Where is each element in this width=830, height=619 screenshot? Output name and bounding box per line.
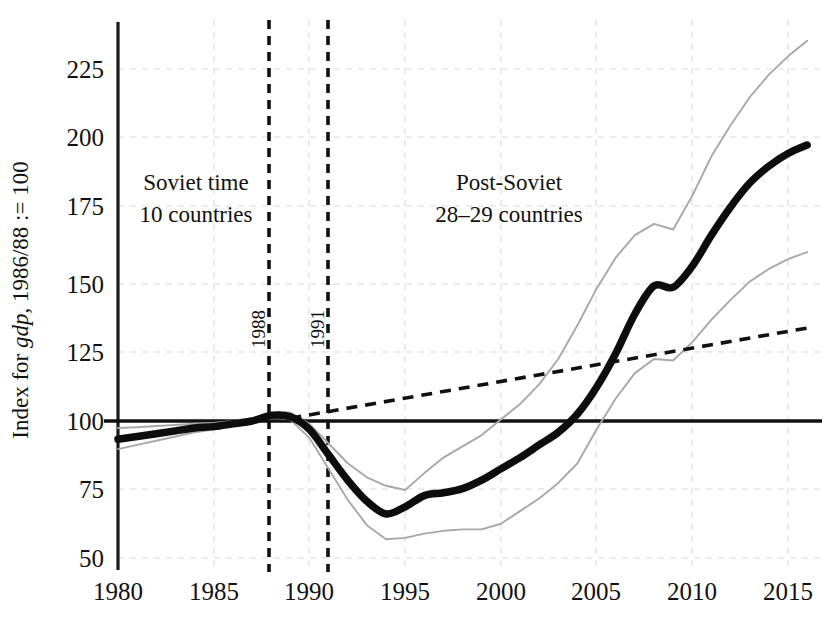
x-tick-1980: 1980 — [93, 578, 143, 605]
y-tick-200: 200 — [67, 124, 105, 151]
annotation-soviet-time-line1: Soviet time — [143, 170, 248, 195]
event-label-1988: 1988 — [248, 310, 269, 348]
x-tick-1990: 1990 — [284, 578, 334, 605]
event-label-1991: 1991 — [307, 310, 328, 348]
y-axis-title-post: , 1986/88 := 100 — [8, 161, 33, 313]
annotation-soviet-time: Soviet time 10 countries — [139, 170, 252, 227]
chart-canvas: 225 200 175 150 125 100 75 50 1980 1985 … — [0, 0, 830, 619]
y-tick-225: 225 — [67, 56, 105, 83]
y-axis-title: Index for gdp, 1986/88 := 100 — [8, 161, 33, 438]
x-tick-2000: 2000 — [476, 578, 526, 605]
x-tick-2015: 2015 — [763, 578, 813, 605]
x-tick-labels: 1980 1985 1990 1995 2000 2005 2010 2015 — [93, 578, 813, 605]
y-axis-title-italic: gdp — [8, 314, 33, 349]
y-tick-175: 175 — [67, 193, 105, 220]
y-tick-75: 75 — [79, 476, 104, 503]
annotation-post-soviet-line1: Post-Soviet — [456, 170, 563, 195]
annotation-post-soviet-line2: 28–29 countries — [435, 202, 583, 227]
annotation-soviet-time-line2: 10 countries — [139, 202, 252, 227]
gdp-index-chart: 225 200 175 150 125 100 75 50 1980 1985 … — [0, 0, 830, 619]
y-tick-100: 100 — [67, 408, 105, 435]
y-tick-labels: 225 200 175 150 125 100 75 50 — [67, 56, 105, 572]
series-lower-band — [118, 252, 807, 539]
x-tick-1985: 1985 — [189, 578, 239, 605]
x-tick-2010: 2010 — [667, 578, 717, 605]
y-tick-50: 50 — [79, 545, 104, 572]
x-tick-1995: 1995 — [380, 578, 430, 605]
y-tick-150: 150 — [67, 271, 105, 298]
x-tick-2005: 2005 — [571, 578, 621, 605]
y-tick-125: 125 — [67, 339, 105, 366]
annotation-post-soviet: Post-Soviet 28–29 countries — [435, 170, 583, 227]
y-axis-title-pre: Index for — [8, 348, 33, 439]
